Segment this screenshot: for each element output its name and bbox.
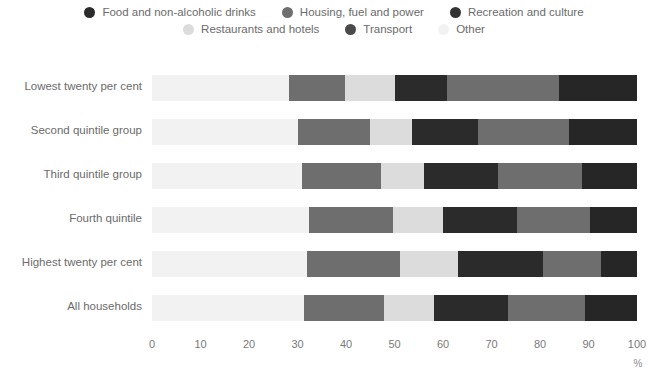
bar-segment[interactable] [569,119,637,145]
x-axis-tick: 70 [485,338,497,350]
bar-segment[interactable] [152,75,289,101]
bar-segment[interactable] [307,251,400,277]
bar-segment[interactable] [443,207,517,233]
legend-item-label: Transport [363,23,412,36]
bar-segment[interactable] [309,207,392,233]
chart-row: Lowest twenty per cent [0,68,668,104]
stacked-bar [152,163,637,189]
bar-segment[interactable] [152,163,302,189]
chart-legend: Food and non-alcoholic drinksHousing, fu… [0,6,668,36]
bar-segment[interactable] [289,75,345,101]
bar-segment[interactable] [152,119,298,145]
legend-item-label: Restaurants and hotels [201,23,319,36]
bar-segment[interactable] [412,119,478,145]
x-axis-tick: 20 [243,338,255,350]
bar-segment[interactable] [381,163,424,189]
stacked-bar [152,251,637,277]
bar-segment[interactable] [517,207,590,233]
bar-segment[interactable] [458,251,543,277]
bar-segment[interactable] [304,295,384,321]
bar-segment[interactable] [508,295,585,321]
chart-row: Third quintile group [0,156,668,192]
x-axis-tick: 80 [534,338,546,350]
bar-segment[interactable] [152,295,304,321]
legend-item[interactable]: Recreation and culture [450,6,584,19]
bar-segment[interactable] [601,251,637,277]
stacked-bar [152,295,637,321]
bar-segment[interactable] [559,75,637,101]
x-axis-tick: 100 [628,338,646,350]
bar-segment[interactable] [302,163,381,189]
legend-row: Food and non-alcoholic drinksHousing, fu… [71,6,596,19]
bar-segment[interactable] [384,295,434,321]
stacked-bar [152,207,637,233]
x-axis-tick: 60 [437,338,449,350]
bar-segment[interactable] [590,207,637,233]
bar-segment[interactable] [447,75,559,101]
bar-segment[interactable] [400,251,458,277]
legend-item-label: Recreation and culture [468,6,584,19]
bar-segment[interactable] [370,119,412,145]
chart-row: Fourth quintile [0,200,668,236]
stacked-bar-chart: Food and non-alcoholic drinksHousing, fu… [0,0,668,384]
x-axis-tick: 30 [291,338,303,350]
category-label: Second quintile group [0,112,142,148]
x-axis-tick: 10 [194,338,206,350]
bar-segment[interactable] [434,295,508,321]
bar-segment[interactable] [424,163,498,189]
legend-item-label: Housing, fuel and power [300,6,424,19]
bar-segment[interactable] [498,163,582,189]
legend-item[interactable]: Transport [345,23,412,36]
bar-segment[interactable] [393,207,443,233]
bar-segment[interactable] [478,119,569,145]
x-axis-unit-label: % [634,358,643,369]
bar-segment[interactable] [152,207,309,233]
bar-segment[interactable] [582,163,637,189]
bar-segment[interactable] [345,75,395,101]
bar-segment[interactable] [395,75,447,101]
legend-dot-icon [438,24,449,35]
chart-row: All households [0,288,668,324]
bar-segment[interactable] [298,119,370,145]
category-label: Fourth quintile [0,200,142,236]
category-label: Third quintile group [0,156,142,192]
legend-item[interactable]: Other [438,23,485,36]
category-label: All households [0,288,142,324]
legend-item-label: Food and non-alcoholic drinks [102,6,255,19]
legend-item-label: Other [456,23,485,36]
chart-row: Second quintile group [0,112,668,148]
plot-area: Lowest twenty per centSecond quintile gr… [0,68,668,338]
stacked-bar [152,75,637,101]
legend-dot-icon [450,7,461,18]
legend-dot-icon [345,24,356,35]
bar-segment[interactable] [543,251,601,277]
legend-item[interactable]: Restaurants and hotels [183,23,319,36]
bar-segment[interactable] [152,251,307,277]
x-axis-tick: 0 [149,338,155,350]
x-axis: % 0102030405060708090100 [0,338,668,384]
x-axis-tick: 40 [340,338,352,350]
legend-dot-icon [84,7,95,18]
bar-segment[interactable] [585,295,637,321]
chart-row: Highest twenty per cent [0,244,668,280]
category-label: Highest twenty per cent [0,244,142,280]
legend-row: Restaurants and hotelsTransportOther [170,23,498,36]
x-axis-tick: 90 [582,338,594,350]
category-label: Lowest twenty per cent [0,68,142,104]
legend-item[interactable]: Housing, fuel and power [282,6,424,19]
legend-dot-icon [183,24,194,35]
legend-dot-icon [282,7,293,18]
x-axis-tick: 50 [388,338,400,350]
legend-item[interactable]: Food and non-alcoholic drinks [84,6,255,19]
stacked-bar [152,119,637,145]
